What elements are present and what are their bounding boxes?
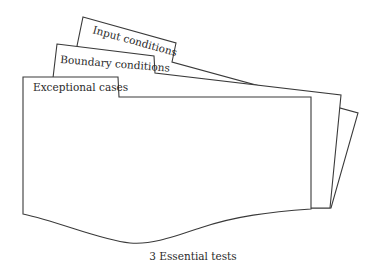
card-exceptional-shape — [23, 77, 311, 243]
card-exceptional-label: Exceptional cases — [33, 81, 128, 93]
essential-tests-diagram: Input conditions Boundary conditions Exc… — [0, 0, 375, 274]
card-exceptional-cases: Exceptional cases — [23, 77, 311, 243]
diagram-caption: 3 Essential tests — [149, 250, 236, 262]
